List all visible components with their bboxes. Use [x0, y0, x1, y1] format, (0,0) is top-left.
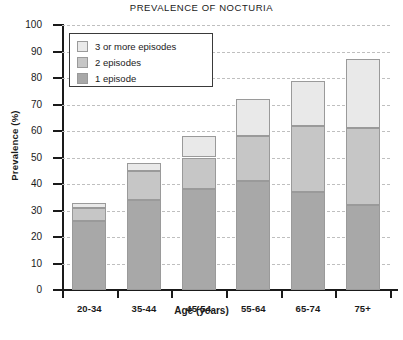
bar-segment-3-or-more-episodes	[291, 81, 325, 126]
gridline	[62, 184, 390, 185]
bar-segment-2-episodes	[236, 136, 270, 181]
y-axis-tick	[53, 289, 62, 291]
y-axis-tick	[53, 130, 62, 132]
y-axis-tick-label: 10	[2, 259, 42, 269]
bar-segment-1-episode	[346, 205, 380, 290]
y-axis-tick-label: 0	[2, 285, 42, 295]
x-axis-tick	[117, 290, 119, 298]
bar-segment-1-episode	[127, 200, 161, 290]
y-axis-tick	[53, 183, 62, 185]
bar-segment-3-or-more-episodes	[127, 163, 161, 171]
y-axis-tick	[53, 24, 62, 26]
bar-segment-3-or-more-episodes	[236, 99, 270, 136]
bar-segment-2-episodes	[182, 158, 216, 190]
y-axis-tick-label: 30	[2, 206, 42, 216]
bar-segment-1-episode	[236, 181, 270, 290]
legend-label-3-or-more-episodes: 3 or more episodes	[95, 41, 176, 52]
legend-label-2-episodes: 2 episodes	[95, 57, 141, 68]
bar-65-74	[291, 25, 325, 290]
legend-item-3-or-more: 3 or more episodes	[77, 39, 212, 54]
y-axis-tick-label: 100	[2, 20, 42, 30]
x-axis-tick	[390, 290, 392, 298]
bar-segment-1-episode	[182, 189, 216, 290]
gridline	[62, 105, 390, 106]
y-axis-tick-label: 60	[2, 126, 42, 136]
nocturia-prevalence-chart: PREVALENCE OF NOCTURIA Prevalence (%) 01…	[0, 0, 403, 340]
y-axis-tick-label: 90	[2, 47, 42, 57]
gridline	[62, 237, 390, 238]
legend-item-2-episodes: 2 episodes	[77, 55, 212, 70]
y-axis-tick	[53, 51, 62, 53]
legend-item-1-episode: 1 episode	[77, 71, 212, 86]
gridline	[62, 264, 390, 265]
bar-segment-2-episodes	[291, 126, 325, 192]
y-axis-tick-label: 20	[2, 232, 42, 242]
x-axis-tick	[281, 290, 283, 298]
x-axis-title: Age (years)	[0, 305, 403, 316]
chart-title: PREVALENCE OF NOCTURIA	[0, 2, 403, 13]
gridline	[62, 158, 390, 159]
gridline	[62, 25, 390, 26]
bar-segment-3-or-more-episodes	[346, 59, 380, 128]
x-axis-tick	[226, 290, 228, 298]
bar-55-64	[236, 25, 270, 290]
gridline	[62, 211, 390, 212]
bar-segment-2-episodes	[346, 128, 380, 205]
legend-label-1-episode: 1 episode	[95, 73, 136, 84]
y-axis-tick-label: 80	[2, 73, 42, 83]
x-axis-tick	[62, 290, 64, 298]
bar-segment-2-episodes	[72, 208, 106, 221]
legend-swatch-1-episode	[77, 73, 88, 84]
y-axis-tick	[53, 263, 62, 265]
y-axis-tick	[53, 210, 62, 212]
bar-segment-1-episode	[291, 192, 325, 290]
x-axis-tick	[171, 290, 173, 298]
gridline	[62, 131, 390, 132]
y-axis-tick-label: 40	[2, 179, 42, 189]
y-axis-tick-label: 50	[2, 153, 42, 163]
chart-legend: 3 or more episodes 2 episodes 1 episode	[69, 33, 213, 87]
x-axis-tick	[335, 290, 337, 298]
y-axis-tick-label: 70	[2, 100, 42, 110]
y-axis-tick	[53, 236, 62, 238]
bar-segment-2-episodes	[127, 171, 161, 200]
y-axis-tick	[53, 77, 62, 79]
legend-swatch-2-episodes	[77, 57, 88, 68]
bar-75+	[346, 25, 380, 290]
y-axis-tick	[53, 104, 62, 106]
bar-segment-1-episode	[72, 221, 106, 290]
legend-swatch-3-or-more-episodes	[77, 41, 88, 52]
y-axis-tick	[53, 157, 62, 159]
bar-segment-3-or-more-episodes	[182, 136, 216, 157]
bar-segment-3-or-more-episodes	[72, 203, 106, 208]
